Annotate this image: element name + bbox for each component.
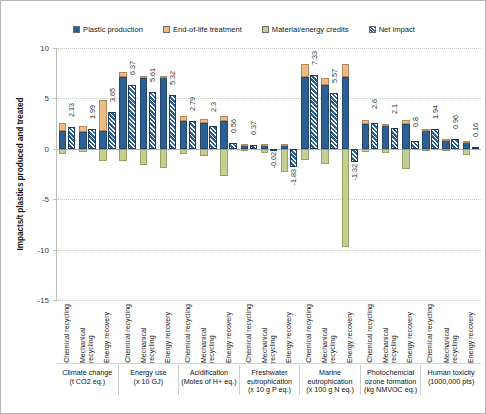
- bar-net-impact: [229, 143, 237, 149]
- x-subcategory-label: Energy recovery: [461, 301, 481, 363]
- bar-value-label: 6.37: [128, 61, 137, 75]
- x-subcategory-label: Energy recovery: [158, 301, 178, 363]
- bar-material-energy-credits: [442, 149, 450, 151]
- legend-swatch-icon: [163, 26, 170, 33]
- x-subcategory-label: Chemical recycling: [299, 301, 319, 363]
- x-subcategory-text: Mechanical recycling: [382, 301, 398, 363]
- bar-end-of-life-treatment: [321, 78, 329, 86]
- bar-material-energy-credits: [59, 149, 67, 154]
- bar-plastic-production: [422, 129, 430, 149]
- x-axis-subcategory-labels: Chemical recyclingMechanical recyclingEn…: [57, 301, 481, 363]
- legend-label: Plastic production: [83, 25, 143, 34]
- bar-end-of-life-treatment: [442, 139, 450, 141]
- x-subcategory-label: Chemical recycling: [57, 301, 77, 363]
- x-subcategory-text: Energy recovery: [225, 312, 233, 363]
- legend-item-credits[interactable]: Material/energy credits: [262, 25, 349, 34]
- bar-value-label: 2.79: [188, 97, 197, 111]
- bar-material-energy-credits: [241, 149, 249, 151]
- bar-plastic-production: [362, 124, 370, 149]
- bar-net-impact: [391, 128, 399, 149]
- legend-item-eol[interactable]: End-of-life treatment: [163, 25, 242, 34]
- bar-end-of-life-treatment: [59, 123, 67, 132]
- y-axis-labels: 1050-5-10-15: [1, 1, 53, 414]
- x-subcategory-label: Energy recovery: [400, 301, 420, 363]
- bar-end-of-life-treatment: [160, 76, 168, 78]
- x-subcategory-text: Mechanical recycling: [261, 301, 277, 363]
- x-axis-group-labels: Climate change (t CO2 eq.)Energy use (x …: [57, 365, 481, 411]
- x-subcategory-text: Mechanical recycling: [200, 301, 216, 363]
- x-subcategory-text: Mechanical recycling: [443, 301, 459, 363]
- x-subcategory-text: Energy recovery: [467, 312, 475, 363]
- bar-material-energy-credits: [362, 149, 370, 152]
- x-subcategory-label: Mechanical recycling: [138, 301, 158, 363]
- bar-plastic-production: [402, 124, 410, 149]
- bar-plastic-production: [59, 131, 67, 149]
- bar-material-energy-credits: [382, 149, 390, 153]
- y-tick-label: -5: [42, 195, 49, 204]
- x-subcategory-text: Energy recovery: [406, 312, 414, 363]
- x-group-label: Energy use (x 10 GJ): [118, 365, 179, 395]
- x-group-text: Marine eutrophication (x 100 g N eq.): [300, 369, 360, 395]
- y-tick-label: -15: [37, 296, 49, 305]
- x-subcategory-text: Chemical recycling: [245, 304, 253, 363]
- y-tick-mark: [53, 98, 57, 99]
- chart-figure: Plastic productionEnd-of-life treatmentM…: [0, 0, 486, 414]
- gridline: [57, 199, 481, 200]
- x-subcategory-label: Mechanical recycling: [319, 301, 339, 363]
- bar-material-energy-credits: [261, 149, 269, 154]
- gridline: [57, 250, 481, 251]
- bar-end-of-life-treatment: [200, 119, 208, 123]
- bar-plastic-production: [180, 121, 188, 149]
- bar-material-energy-credits: [342, 149, 350, 247]
- bar-plastic-production: [382, 124, 390, 149]
- bar-value-label: 0.56: [229, 119, 238, 133]
- y-tick-label: -10: [37, 245, 49, 254]
- bar-plastic-production: [220, 121, 228, 149]
- bar-value-label: 3.65: [108, 88, 117, 102]
- x-group-text: Acidification (Moles of H+ eq.): [181, 369, 236, 386]
- x-group-label: Marine eutrophication (x 100 g N eq.): [299, 365, 360, 395]
- bar-value-label: 5.61: [148, 68, 157, 82]
- x-group-label: Human toxicity (1000,000 pts): [420, 365, 481, 395]
- x-axis-separator: [57, 363, 481, 364]
- legend-item-net[interactable]: Net impact: [369, 25, 415, 34]
- bar-plastic-production: [200, 123, 208, 149]
- y-tick-mark: [53, 199, 57, 200]
- bar-value-label: -1.32: [350, 164, 359, 180]
- x-group-text: Climate change (t CO2 eq.): [62, 369, 112, 386]
- bar-material-energy-credits: [402, 149, 410, 169]
- legend-label: End-of-life treatment: [173, 25, 242, 34]
- legend-item-production[interactable]: Plastic production: [73, 25, 143, 34]
- bar-net-impact: [108, 112, 116, 149]
- x-subcategory-text: Chemical recycling: [426, 304, 434, 363]
- bar-plastic-production: [140, 78, 148, 149]
- bar-material-energy-credits: [422, 149, 430, 151]
- bar-end-of-life-treatment: [362, 120, 370, 125]
- x-subcategory-label: Chemical recycling: [239, 301, 259, 363]
- x-subcategory-label: Chemical recycling: [118, 301, 138, 363]
- x-subcategory-label: Mechanical recycling: [198, 301, 218, 363]
- bar-plastic-production: [160, 77, 168, 149]
- bar-end-of-life-treatment: [261, 144, 269, 146]
- x-subcategory-label: Energy recovery: [340, 301, 360, 363]
- bar-end-of-life-treatment: [301, 64, 309, 78]
- y-tick-mark: [53, 250, 57, 251]
- y-tick-mark: [53, 149, 57, 150]
- bar-material-energy-credits: [79, 149, 87, 152]
- bar-net-impact: [310, 75, 318, 149]
- bar-net-impact: [451, 139, 459, 149]
- legend-label: Net impact: [379, 25, 415, 34]
- bar-end-of-life-treatment: [180, 116, 188, 121]
- bar-plastic-production: [99, 131, 107, 149]
- bar-end-of-life-treatment: [342, 64, 350, 77]
- bar-value-label: 7.33: [310, 51, 319, 65]
- bar-plastic-production: [301, 77, 309, 149]
- bar-end-of-life-treatment: [241, 144, 249, 146]
- bar-material-energy-credits: [140, 149, 148, 166]
- bar-end-of-life-treatment: [422, 129, 430, 131]
- bar-net-impact: [351, 149, 359, 162]
- x-subcategory-text: Chemical recycling: [366, 304, 374, 363]
- bar-net-impact: [128, 85, 136, 149]
- bar-end-of-life-treatment: [220, 116, 228, 121]
- legend-swatch-icon: [262, 26, 269, 33]
